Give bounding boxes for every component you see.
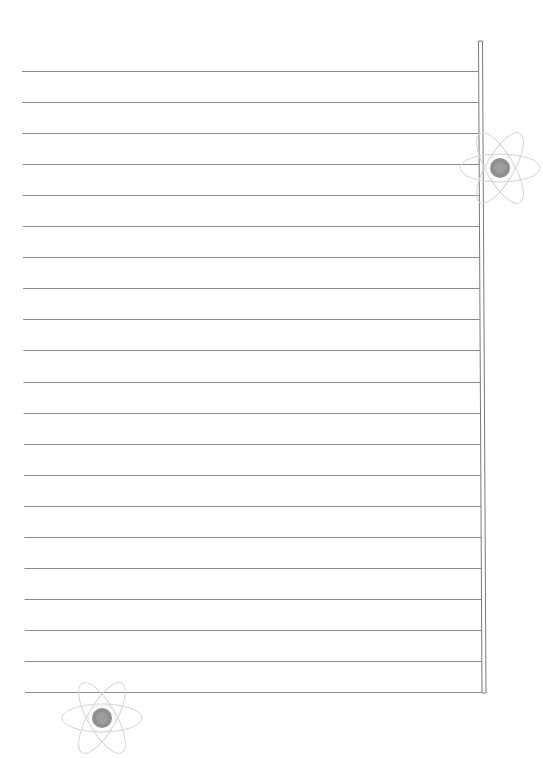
rule-lines-group [22, 72, 482, 693]
atom-icon [59, 675, 145, 758]
atom-icon [457, 125, 543, 211]
